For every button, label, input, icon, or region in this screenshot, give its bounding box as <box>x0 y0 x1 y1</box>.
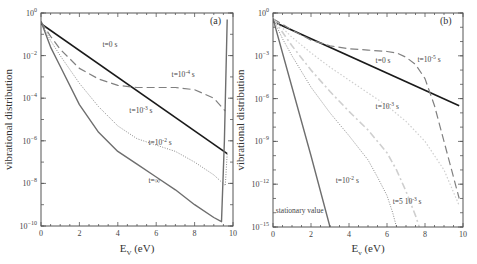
curve-annotation: t=10-3 s <box>129 105 152 115</box>
x-tick-label: 2 <box>77 229 81 238</box>
x-tick-label: 0 <box>271 230 275 239</box>
series-line <box>41 22 227 186</box>
x-tick-label: 2 <box>309 230 313 239</box>
plot-frame <box>41 13 233 226</box>
panel-a: 024681010010−210−410−610−810−10t=0 st=10… <box>2 7 237 257</box>
series-group <box>41 19 227 221</box>
y-tick-label: 100 <box>258 7 269 18</box>
y-tick-label: 10−10 <box>20 220 37 231</box>
x-tick-label: 4 <box>116 229 120 238</box>
y-tick-label: 10−9 <box>255 135 269 146</box>
y-tick-label: 10−3 <box>255 50 269 61</box>
y-tick-label: 10−15 <box>252 221 269 232</box>
curve-annotation: t=5 10-3 s <box>393 196 422 206</box>
curve-annotation: t=10-5 s <box>417 54 440 64</box>
series-line <box>273 19 419 227</box>
curve-annotation: t=10-2 s <box>149 137 172 147</box>
panel-tag: (a) <box>210 15 221 27</box>
y-axis-title: vibrational distribution <box>234 69 246 171</box>
y-tick-label: 10−12 <box>252 178 269 189</box>
x-axis-title: EV (eV) <box>120 242 155 257</box>
series-line <box>41 22 225 112</box>
y-tick-label: 10−2 <box>23 50 37 61</box>
series-line <box>41 19 227 221</box>
curve-annotation: stationary value <box>276 206 324 215</box>
x-tick-label: 6 <box>385 230 389 239</box>
curve-annotation: t=0 s <box>376 56 391 65</box>
figure-canvas: 024681010010−210−410−610−810−10t=0 st=10… <box>0 0 477 264</box>
series-line <box>273 19 330 227</box>
x-tick-label: 10 <box>459 230 467 239</box>
curve-annotation: t=∞ <box>149 176 161 185</box>
y-tick-label: 10−4 <box>23 92 37 103</box>
series-line <box>273 19 459 206</box>
panel-tag: (b) <box>440 15 452 27</box>
panel-b: 024681010010−310−610−910−1210−15t=0 st=1… <box>234 7 467 257</box>
x-tick-label: 8 <box>193 229 197 238</box>
series-group <box>273 19 459 227</box>
y-tick-label: 10−6 <box>23 135 37 146</box>
x-axis-title: Ev (eV) <box>351 242 384 257</box>
x-tick-label: 6 <box>154 229 158 238</box>
y-tick-label: 100 <box>26 7 37 18</box>
curve-annotation: t=10-4 s <box>172 69 195 79</box>
y-tick-label: 10−6 <box>255 93 269 104</box>
curve-annotation: t=10-2 s <box>336 175 359 185</box>
series-line <box>41 24 227 154</box>
x-tick-label: 8 <box>423 230 427 239</box>
x-tick-label: 0 <box>39 229 43 238</box>
curve-annotation: t=10-3 s <box>376 101 399 111</box>
y-tick-label: 10−8 <box>23 177 37 188</box>
x-tick-label: 4 <box>347 230 351 239</box>
y-axis-title: vibrational distribution <box>2 68 14 170</box>
curve-annotation: t=0 s <box>102 40 117 49</box>
x-tick-label: 10 <box>229 229 237 238</box>
series-line <box>273 19 459 199</box>
